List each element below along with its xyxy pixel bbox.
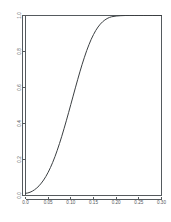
x-tick-label: 0.0	[22, 200, 29, 205]
y-tick-label: 0.8	[17, 48, 22, 55]
plot-canvas: 0.00.20.40.60.81.0 0.00.050.100.150.200.…	[0, 0, 171, 222]
chart-figure: 0.00.20.40.60.81.0 0.00.050.100.150.200.…	[0, 0, 171, 222]
x-tick-label: 0.25	[134, 200, 143, 205]
y-tick-label: 0.0	[17, 192, 22, 199]
x-tick-label: 0.30	[157, 200, 166, 205]
y-tick-label: 0.2	[17, 156, 22, 163]
y-tick-label: 1.0	[17, 12, 22, 19]
y-tick-label: 0.4	[17, 120, 22, 127]
x-tick-label: 0.10	[66, 200, 75, 205]
x-tick-label: 0.05	[44, 200, 53, 205]
x-tick-label: 0.15	[89, 200, 98, 205]
x-tick-label: 0.20	[112, 200, 121, 205]
y-tick-label: 0.6	[17, 84, 22, 91]
